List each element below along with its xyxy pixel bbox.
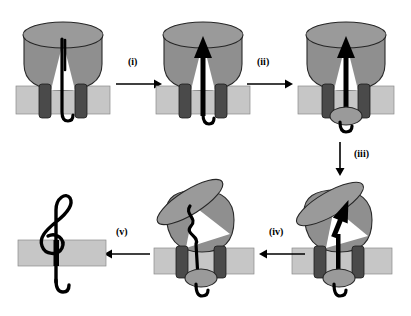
transmembrane-helix-left bbox=[39, 84, 51, 118]
transmembrane-helix-left bbox=[314, 246, 326, 278]
step-arrow-v-label: (v) bbox=[116, 226, 128, 237]
transmembrane-helix-right bbox=[352, 246, 364, 278]
panel-3-arrow-up-with-cap bbox=[288, 6, 404, 136]
step-arrow-iv: (iv) bbox=[259, 240, 309, 268]
folded-domain-ellipse bbox=[323, 269, 355, 287]
transmembrane-helix-right bbox=[75, 84, 87, 118]
transmembrane-helix-right bbox=[214, 246, 226, 278]
panel-5-graphic bbox=[146, 176, 266, 312]
arrow-iv-graphic bbox=[259, 240, 309, 268]
diagram-canvas: (i) (ii) bbox=[0, 0, 411, 316]
transmembrane-helix-left bbox=[176, 246, 188, 278]
folded-domain-ellipse bbox=[185, 269, 217, 287]
panel-6-treble-clef bbox=[12, 186, 112, 306]
step-arrow-ii-label: (ii) bbox=[257, 56, 269, 67]
folded-protein-treble-clef bbox=[41, 196, 71, 282]
arrow-iii-head bbox=[336, 168, 345, 176]
step-arrow-i-label: (i) bbox=[128, 56, 137, 67]
panel-6-graphic bbox=[12, 186, 112, 306]
transmembrane-helix-right bbox=[215, 84, 227, 118]
panel-5-zigzag bbox=[146, 176, 266, 312]
step-arrow-iv-label: (iv) bbox=[269, 226, 283, 237]
panel-2-graphic bbox=[148, 6, 258, 136]
panel-3-graphic bbox=[288, 6, 404, 136]
panel-1-upright-closed bbox=[8, 8, 118, 133]
substrate-shaft bbox=[201, 54, 206, 116]
panel-1-graphic bbox=[8, 8, 118, 133]
folded-domain-ellipse bbox=[330, 107, 362, 125]
transmembrane-helix-left bbox=[179, 84, 191, 118]
substrate-hook bbox=[56, 280, 69, 292]
step-arrow-iii: (iii) bbox=[332, 140, 352, 178]
transmembrane-segment bbox=[54, 240, 60, 266]
step-arrow-iii-label: (iii) bbox=[354, 148, 369, 159]
panel-2-arrow-up bbox=[148, 6, 258, 136]
arrow-iii-graphic bbox=[332, 140, 352, 178]
